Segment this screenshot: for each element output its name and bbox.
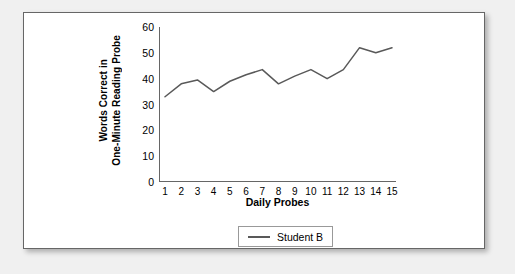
y-axis-tick-label: 30 [132, 99, 154, 111]
chart-figure: Words Correct in One-Minute Reading Prob… [24, 13, 486, 250]
y-axis-tick-label: 50 [132, 47, 154, 59]
chart-card: Words Correct in One-Minute Reading Prob… [23, 12, 485, 249]
chart-legend: Student B [238, 226, 333, 247]
y-axis-title: Words Correct in One-Minute Reading Prob… [90, 13, 130, 188]
line-chart-svg [159, 27, 396, 182]
data-series-group [165, 48, 392, 97]
legend-line-swatch [248, 236, 270, 238]
legend-label-student-b: Student B [277, 231, 323, 243]
y-axis-tick-label: 10 [132, 150, 154, 162]
y-axis-title-line-2: One-Minute Reading Probe [110, 35, 123, 166]
y-axis-title-line-1: Words Correct in [97, 59, 110, 142]
plot-area: 0102030405060 123456789101112131415 [159, 27, 396, 182]
data-line-student-b [165, 48, 392, 97]
y-axis-tick-label: 20 [132, 124, 154, 136]
x-axis-title: Daily Probes [159, 196, 396, 208]
y-axis-tick-label: 60 [132, 21, 154, 33]
y-axis-tick-label: 0 [132, 176, 154, 188]
y-axis-tick-label: 40 [132, 73, 154, 85]
